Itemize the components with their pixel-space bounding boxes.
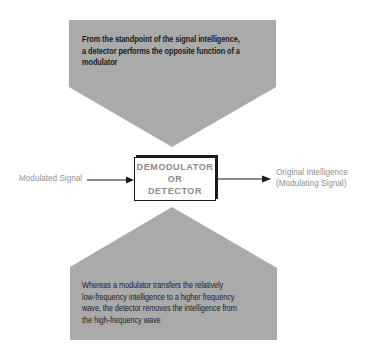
- top-callout-line: modulator: [82, 57, 306, 69]
- top-callout-text: From the standpoint of the signal intell…: [82, 34, 306, 69]
- demodulator-block: DEMODULATOR OR DETECTOR: [134, 157, 216, 201]
- block-label-line: DETECTOR: [135, 185, 215, 197]
- bottom-callout-line: the high-frequency wave: [82, 315, 306, 327]
- output-label-line: (Modulating Signal): [276, 177, 348, 188]
- top-callout-line: a detector performs the opposite functio…: [82, 46, 306, 58]
- bottom-callout-line: Whereas a modulator transfers the relati…: [82, 280, 306, 292]
- top-callout-line: From the standpoint of the signal intell…: [82, 34, 306, 46]
- output-label-line: Original Intelligence: [276, 166, 348, 177]
- bottom-callout-text: Whereas a modulator transfers the relati…: [82, 280, 306, 326]
- block-label-line: OR: [135, 173, 215, 185]
- output-arrowhead-icon: [262, 176, 271, 183]
- output-label: Original Intelligence (Modulating Signal…: [276, 166, 348, 188]
- input-arrowhead-icon: [126, 177, 134, 184]
- bottom-callout-line: low-frequency intelligence to a higher f…: [82, 292, 306, 304]
- block-label-line: DEMODULATOR: [135, 161, 215, 173]
- input-label: Modulated Signal: [19, 172, 82, 183]
- bottom-callout-line: wave, the detector removes the intellige…: [82, 303, 306, 315]
- block-label: DEMODULATOR OR DETECTOR: [135, 161, 215, 197]
